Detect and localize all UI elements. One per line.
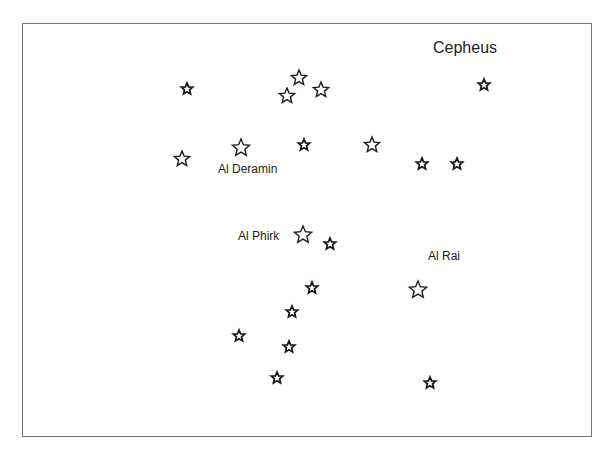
star-field — [0, 0, 616, 457]
star-icon — [416, 158, 427, 169]
star-icon — [409, 281, 426, 297]
label-al-phirk: Al Phirk — [238, 229, 279, 243]
star-icon — [306, 282, 317, 293]
star-icon — [294, 226, 311, 242]
star-icon — [298, 139, 309, 150]
star-icon — [364, 137, 379, 152]
star-icon — [271, 372, 282, 383]
constellation-title: Cepheus — [433, 39, 497, 57]
star-icon — [451, 158, 462, 169]
star-icon — [478, 79, 489, 90]
star-icon — [232, 139, 249, 155]
star-icon — [424, 377, 435, 388]
star-icon — [279, 88, 294, 103]
star-icon — [291, 70, 306, 85]
star-icon — [286, 306, 297, 317]
star-icon — [313, 82, 328, 97]
star-icon — [174, 151, 189, 166]
label-al-deramin: Al Deramin — [218, 162, 277, 176]
star-icon — [181, 83, 192, 94]
label-al-rai: Al Rai — [428, 249, 460, 263]
star-icon — [324, 238, 335, 249]
star-icon — [233, 330, 244, 341]
star-icon — [283, 341, 294, 352]
